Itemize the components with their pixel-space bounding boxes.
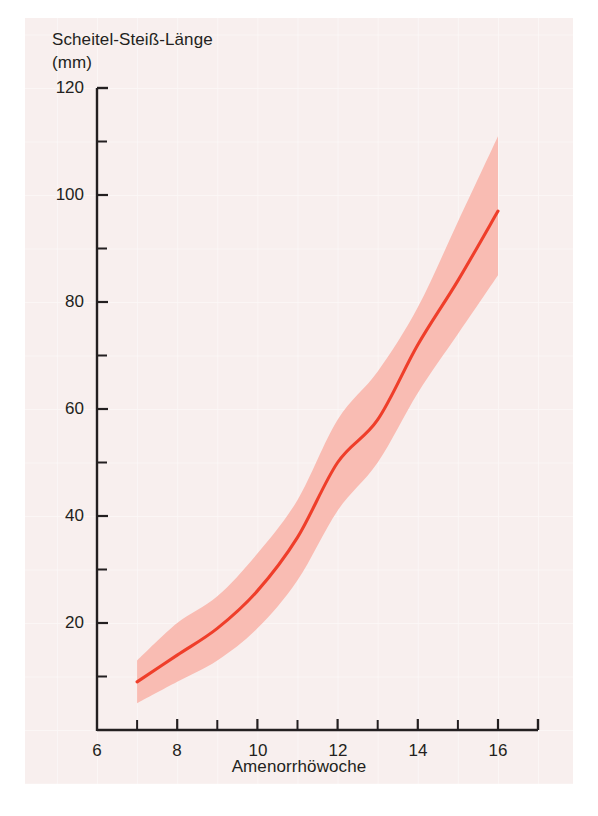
- chart-figure: Scheitel-Steiß-Länge (mm) Amenorrhöwoche…: [0, 0, 598, 816]
- chart-plot-svg: [0, 0, 598, 816]
- reference-range-band: [137, 136, 498, 703]
- chart-axes: [97, 88, 538, 731]
